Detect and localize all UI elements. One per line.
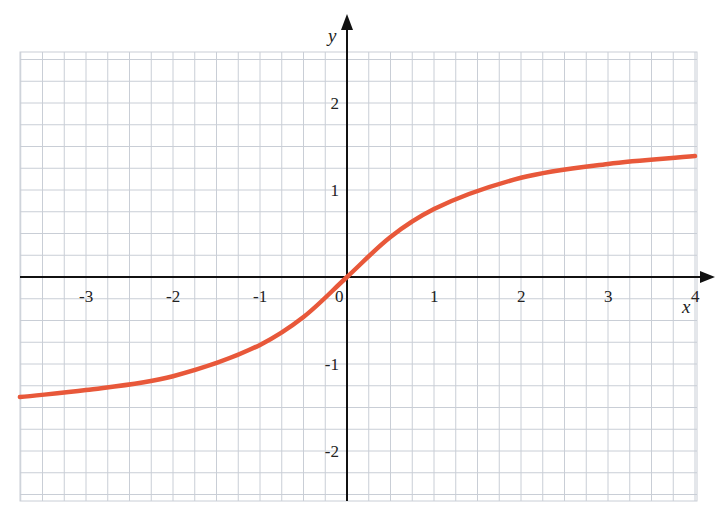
y-tick-label: -1 xyxy=(325,355,339,374)
y-axis-arrow-icon xyxy=(341,14,353,30)
y-tick-label: 1 xyxy=(331,181,340,200)
x-tick-label: 2 xyxy=(517,287,526,306)
x-tick-label: -2 xyxy=(166,287,180,306)
x-tick-label: -3 xyxy=(79,287,93,306)
x-tick-labels: -3-2-101234 xyxy=(79,287,700,306)
x-tick-label: -1 xyxy=(253,287,267,306)
x-tick-label: 3 xyxy=(604,287,613,306)
x-axis-arrow-icon xyxy=(700,271,715,283)
y-tick-label: -2 xyxy=(325,442,339,461)
x-tick-label: 1 xyxy=(430,287,439,306)
y-axis-label: y xyxy=(326,25,337,46)
y-tick-label: 2 xyxy=(331,94,340,113)
x-axis-label: x xyxy=(681,296,691,317)
x-tick-label: 4 xyxy=(691,287,700,306)
graph: -3-2-101234 21-1-2 x y xyxy=(0,0,723,509)
